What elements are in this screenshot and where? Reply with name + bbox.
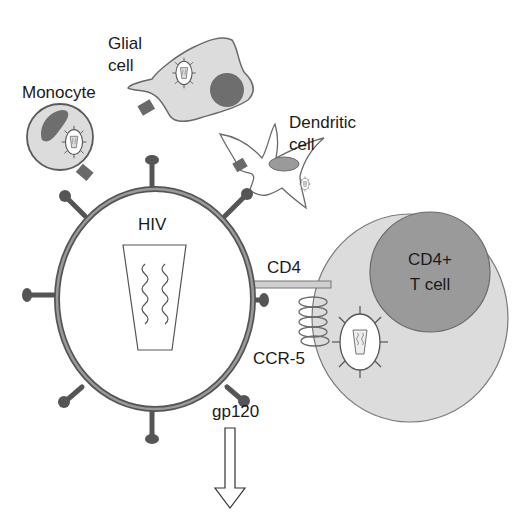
gp120-label: gp120 bbox=[212, 402, 259, 421]
t-cell-nucleus bbox=[370, 212, 490, 332]
t-cell-label-line2: T cell bbox=[410, 275, 450, 294]
glial-nucleus bbox=[210, 73, 244, 107]
hiv-virion bbox=[22, 155, 269, 444]
hiv-label: HIV bbox=[138, 215, 167, 234]
monocyte-label: Monocyte bbox=[22, 83, 96, 102]
monocyte-receptor bbox=[76, 164, 94, 181]
dendritic-nucleus bbox=[269, 157, 299, 171]
dendritic-label-line1: Dendritic bbox=[289, 113, 357, 132]
hiv-diagram: CD4+ T cell bbox=[0, 0, 529, 526]
glial-cell bbox=[128, 38, 253, 122]
t-cell-label-line1: CD4+ bbox=[408, 250, 452, 269]
cd4-label: CD4 bbox=[267, 258, 301, 277]
monocyte bbox=[27, 104, 94, 181]
glial-label-line1: Glial bbox=[108, 34, 142, 53]
cd4-t-cell: CD4+ T cell bbox=[312, 212, 508, 422]
glial-label-line2: cell bbox=[108, 56, 134, 75]
down-arrow-icon bbox=[215, 428, 245, 508]
ccr5-label: CCR-5 bbox=[253, 349, 305, 368]
cd4-receptor bbox=[244, 281, 331, 288]
glial-receptor bbox=[137, 99, 155, 116]
dendritic-label-line2: cell bbox=[289, 135, 315, 154]
